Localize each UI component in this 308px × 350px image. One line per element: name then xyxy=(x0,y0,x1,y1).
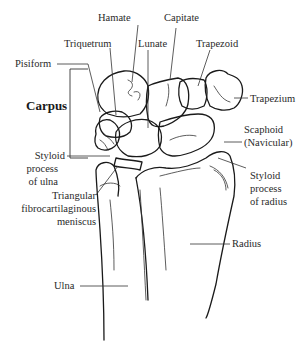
label-carpus: Carpus xyxy=(26,100,67,112)
label-tfcc-2: fibrocartilaginous xyxy=(21,203,96,215)
label-trapezium: Trapezium xyxy=(250,93,295,105)
carpus-bracket xyxy=(70,69,88,158)
meniscus xyxy=(114,158,142,170)
hamate-bone xyxy=(98,71,149,117)
label-styloid-radius-1: Styloid xyxy=(250,170,280,182)
label-triquetrum: Triquetrum xyxy=(64,38,111,50)
label-hamate: Hamate xyxy=(98,12,131,24)
trapezoid-bone xyxy=(179,79,207,109)
hamate-hook xyxy=(128,80,132,96)
label-radius: Radius xyxy=(232,238,261,250)
label-tfcc-3: meniscus xyxy=(57,216,96,228)
label-styloid-ulna-1: Styloid xyxy=(35,150,65,162)
label-ulna: Ulna xyxy=(54,280,74,292)
label-trapezoid: Trapezoid xyxy=(196,38,238,50)
label-styloid-radius-2: process xyxy=(250,183,282,195)
label-scaphoid-alt: (Navicular) xyxy=(244,137,292,149)
label-styloid-ulna-2: process xyxy=(27,163,59,175)
radius-bone xyxy=(136,152,235,318)
label-pisiform: Pisiform xyxy=(15,58,51,70)
lunate-bone xyxy=(116,120,162,157)
label-tfcc-1: Triangular xyxy=(52,190,96,202)
label-capitate: Capitate xyxy=(164,12,199,24)
ulna-bone xyxy=(96,163,119,340)
ulna-shaft-right xyxy=(136,178,148,300)
label-scaphoid: Scaphoid xyxy=(244,124,283,136)
label-styloid-ulna-3: of ulna xyxy=(29,176,58,188)
label-lunate: Lunate xyxy=(138,38,167,50)
label-styloid-radius-3: of radius xyxy=(250,196,287,208)
trapezium-bone xyxy=(205,71,242,111)
